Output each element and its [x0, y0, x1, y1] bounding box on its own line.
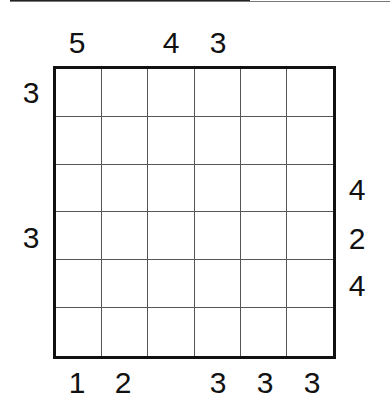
grid-cell-r2c1[interactable] [56, 117, 102, 165]
clue-bottom-2: 2 [108, 368, 138, 398]
clue-left-4: 3 [16, 223, 46, 253]
grid-cell-r3c5[interactable] [241, 165, 287, 213]
clue-bottom-1: 1 [62, 368, 92, 398]
grid-cell-r1c6[interactable] [287, 69, 333, 117]
header-rule [10, 1, 390, 2]
grid-cell-r3c6[interactable] [287, 165, 333, 213]
grid-cell-r1c2[interactable] [102, 69, 148, 117]
grid-cell-r2c5[interactable] [241, 117, 287, 165]
grid-cell-r4c4[interactable] [195, 212, 241, 260]
grid-cell-r6c3[interactable] [148, 308, 194, 356]
grid-cell-r3c4[interactable] [195, 165, 241, 213]
clue-bottom-5: 3 [250, 368, 280, 398]
grid-cell-r2c4[interactable] [195, 117, 241, 165]
grid-cell-r1c4[interactable] [195, 69, 241, 117]
grid-cell-r3c3[interactable] [148, 165, 194, 213]
grid-cell-r6c6[interactable] [287, 308, 333, 356]
grid-cell-r1c5[interactable] [241, 69, 287, 117]
puzzle-grid [53, 66, 336, 359]
grid-cell-r1c3[interactable] [148, 69, 194, 117]
grid-cell-r4c3[interactable] [148, 212, 194, 260]
grid-cell-r4c5[interactable] [241, 212, 287, 260]
grid-cell-r4c6[interactable] [287, 212, 333, 260]
clue-top-4: 3 [203, 28, 233, 58]
grid-cell-r6c4[interactable] [195, 308, 241, 356]
clue-bottom-6: 3 [297, 368, 327, 398]
grid-cell-r3c1[interactable] [56, 165, 102, 213]
grid-cell-r6c1[interactable] [56, 308, 102, 356]
clue-left-1: 3 [16, 78, 46, 108]
grid-cell-r5c2[interactable] [102, 260, 148, 308]
grid-cell-r1c1[interactable] [56, 69, 102, 117]
clue-right-5: 4 [342, 271, 372, 301]
grid-cell-r5c5[interactable] [241, 260, 287, 308]
clue-bottom-4: 3 [203, 368, 233, 398]
clue-right-4: 2 [342, 224, 372, 254]
grid-cell-r4c2[interactable] [102, 212, 148, 260]
grid-cell-r3c2[interactable] [102, 165, 148, 213]
clue-right-3: 4 [342, 175, 372, 205]
grid-cell-r2c3[interactable] [148, 117, 194, 165]
grid-cell-r5c4[interactable] [195, 260, 241, 308]
grid-cell-r2c2[interactable] [102, 117, 148, 165]
grid-cell-r6c2[interactable] [102, 308, 148, 356]
grid-cell-r2c6[interactable] [287, 117, 333, 165]
grid-cell-r5c3[interactable] [148, 260, 194, 308]
grid-cell-r6c5[interactable] [241, 308, 287, 356]
clue-top-1: 5 [62, 28, 92, 58]
grid-cell-r5c6[interactable] [287, 260, 333, 308]
grid-cell-r5c1[interactable] [56, 260, 102, 308]
clue-top-3: 4 [156, 28, 186, 58]
grid-cell-r4c1[interactable] [56, 212, 102, 260]
